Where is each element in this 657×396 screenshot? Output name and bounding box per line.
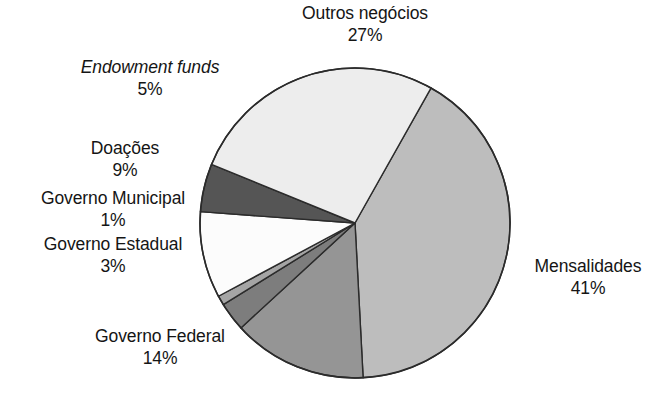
pie-label-doacoes-value: 9% xyxy=(30,159,220,181)
pie-label-governo-estadual: Governo Estadual 3% xyxy=(8,233,218,278)
pie-label-governo-municipal-name: Governo Municipal xyxy=(8,187,218,209)
pie-chart-figure: Outros negócios 27% Endowment funds 5% D… xyxy=(0,0,657,396)
pie-label-outros-negocios: Outros negócios 27% xyxy=(255,2,475,47)
pie-label-governo-federal-value: 14% xyxy=(50,347,270,369)
pie-label-governo-municipal-value: 1% xyxy=(8,209,218,231)
pie-label-doacoes-name: Doações xyxy=(30,137,220,159)
pie-label-mensalidades-value: 41% xyxy=(522,277,654,299)
pie-label-outros-negocios-value: 27% xyxy=(255,24,475,46)
pie-label-governo-federal: Governo Federal 14% xyxy=(50,325,270,370)
pie-label-doacoes: Doações 9% xyxy=(30,137,220,182)
pie-label-governo-estadual-name: Governo Estadual xyxy=(8,233,218,255)
pie-label-endowment-funds-name: Endowment funds xyxy=(30,56,270,78)
pie-label-mensalidades: Mensalidades 41% xyxy=(522,255,654,300)
pie-label-governo-federal-name: Governo Federal xyxy=(50,325,270,347)
pie-label-governo-estadual-value: 3% xyxy=(8,255,218,277)
pie-label-endowment-funds: Endowment funds 5% xyxy=(30,56,270,101)
pie-label-governo-municipal: Governo Municipal 1% xyxy=(8,187,218,232)
pie-label-outros-negocios-name: Outros negócios xyxy=(255,2,475,24)
pie-label-mensalidades-name: Mensalidades xyxy=(522,255,654,277)
pie-label-endowment-funds-value: 5% xyxy=(30,78,270,100)
